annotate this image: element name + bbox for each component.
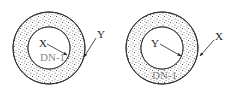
- right-ring-inner-boundary: [141, 27, 183, 69]
- left-outer-label: Y: [97, 28, 105, 40]
- diagram-canvas: DN-1 X Y DN-1 Y X: [0, 0, 234, 95]
- right-inner-label: Y: [151, 37, 159, 49]
- left-ring-bottom-text: DN-1: [40, 51, 65, 63]
- right-outer-arrow: [200, 40, 214, 56]
- right-ring-figure: DN-1 Y X: [126, 12, 223, 84]
- left-outer-arrow: [84, 38, 96, 57]
- left-ring-figure: DN-1 X Y: [13, 12, 105, 84]
- right-outer-label: X: [215, 30, 223, 42]
- right-ring-bottom-text: DN-1: [152, 69, 177, 81]
- left-inner-label: X: [39, 37, 47, 49]
